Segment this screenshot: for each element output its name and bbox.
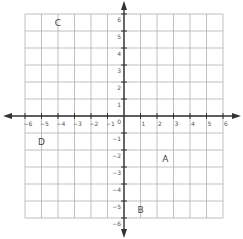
y-tick-label: 2 xyxy=(117,84,121,91)
y-tick-label: 1 xyxy=(117,101,121,108)
x-tick-label: −4 xyxy=(57,120,66,127)
point-label-a: A xyxy=(162,154,169,164)
x-tick-label: 6 xyxy=(224,120,228,127)
y-tick-label: −6 xyxy=(112,220,121,227)
x-tick-label: −6 xyxy=(24,120,33,127)
x-tick-label: 1 xyxy=(142,120,146,127)
y-tick-label: −1 xyxy=(112,135,121,142)
y-tick-label: −2 xyxy=(112,152,121,159)
arrow-down-icon xyxy=(121,229,127,238)
x-tick-label: 4 xyxy=(191,120,195,127)
x-tick-label: −3 xyxy=(73,120,82,127)
y-tick-label: 6 xyxy=(117,16,121,23)
x-tick-label: −2 xyxy=(90,120,99,127)
y-tick-label: 4 xyxy=(117,50,121,57)
axes xyxy=(3,1,241,238)
coordinate-plane: −6−5−4−3−2−11234566543210−1−2−3−4−5−6 AB… xyxy=(0,0,243,239)
arrow-left-icon xyxy=(3,113,12,119)
point-label-c: C xyxy=(55,18,61,28)
x-tick-label: 3 xyxy=(175,120,179,127)
point-label-d: D xyxy=(38,137,45,147)
x-tick-label: −5 xyxy=(40,120,49,127)
arrow-right-icon xyxy=(232,113,241,119)
y-tick-label: 0 xyxy=(117,118,121,125)
y-tick-label: 3 xyxy=(117,67,121,74)
x-tick-label: 5 xyxy=(208,120,212,127)
y-tick-label: −3 xyxy=(112,169,121,176)
y-tick-label: 5 xyxy=(117,33,121,40)
y-tick-label: −5 xyxy=(112,203,121,210)
x-tick-label: 2 xyxy=(158,120,162,127)
arrow-up-icon xyxy=(121,1,127,10)
point-label-b: B xyxy=(137,205,143,215)
x-tick-label: −1 xyxy=(106,120,115,127)
y-tick-label: −4 xyxy=(112,186,121,193)
